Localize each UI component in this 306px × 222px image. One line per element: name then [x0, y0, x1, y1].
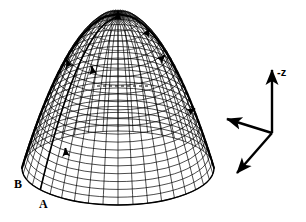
marker-mid-left [92, 66, 93, 73]
point-label-b: B [14, 178, 22, 190]
axis-arrow-lower-left [237, 133, 272, 173]
axis-label-minus-z: -z [277, 67, 286, 78]
marker-lower-left [65, 148, 66, 155]
surface-group [22, 10, 214, 205]
axis-arrow-upper-left [227, 119, 272, 133]
point-label-a: A [39, 198, 48, 210]
figure-root: B A -z [0, 0, 306, 222]
paraboloid-figure-svg [0, 0, 306, 222]
coordinate-axis-triad [227, 70, 272, 173]
